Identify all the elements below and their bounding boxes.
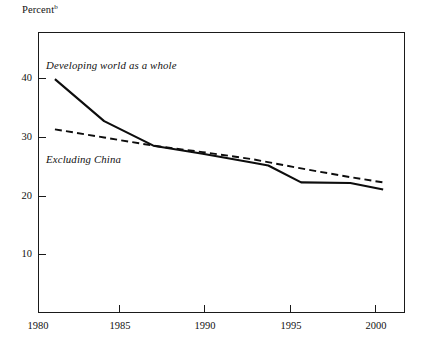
y-axis-label-20: 20 xyxy=(6,190,32,201)
frame-border xyxy=(39,33,405,313)
series-label-excluding-china: Excluding China xyxy=(46,153,121,165)
x-axis-ticks xyxy=(120,305,376,313)
x-axis-label-1990: 1990 xyxy=(183,320,227,331)
series-label-developing-world: Developing world as a whole xyxy=(46,59,177,71)
x-axis-label-1985: 1985 xyxy=(98,320,142,331)
y-axis-label-10: 10 xyxy=(6,248,32,259)
series-developing-world-as-a-whole xyxy=(55,79,383,189)
data-series-group xyxy=(55,79,383,189)
y-axis-ticks xyxy=(39,79,46,255)
plot-frame xyxy=(39,33,405,313)
y-axis-label-30: 30 xyxy=(6,131,32,142)
x-axis-label-1980: 1980 xyxy=(16,320,60,331)
x-axis-label-2000: 2000 xyxy=(354,320,398,331)
x-axis-label-1995: 1995 xyxy=(269,320,313,331)
chart-figure: Percentb 40 30 20 10 1980 1985 1990 1995… xyxy=(0,0,423,345)
y-axis-label-40: 40 xyxy=(6,72,32,83)
plot-area xyxy=(0,0,423,345)
